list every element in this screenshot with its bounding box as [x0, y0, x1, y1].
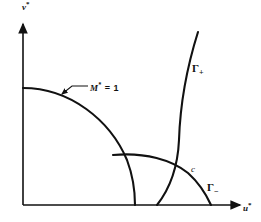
hodograph-figure: v* u* Γ+ Γ− c M* = 1: [0, 0, 261, 222]
u-axis-label: u*: [243, 202, 252, 213]
sonic-condition-variable: M: [90, 83, 99, 93]
gamma-plus-label-subscript: +: [199, 68, 204, 77]
v-axis-label-superscript: *: [26, 0, 30, 8]
u-axis-label-superscript: *: [248, 201, 252, 209]
mach-label-leader-line: [62, 86, 88, 94]
figure-canvas: [0, 0, 261, 222]
gamma-plus-label: Γ+: [192, 63, 204, 77]
gamma-plus-curve: [157, 32, 198, 205]
gamma-minus-label-subscript: −: [214, 187, 219, 196]
sonic-condition-value: = 1: [102, 83, 119, 93]
gamma-minus-label: Γ−: [207, 182, 219, 196]
sonic-circle-curve: [23, 88, 135, 205]
gamma-minus-label-symbol: Γ: [207, 181, 214, 193]
sonic-condition-label: M* = 1: [90, 81, 119, 93]
intersection-point-label: c: [191, 165, 195, 174]
gamma-plus-label-symbol: Γ: [192, 62, 199, 74]
v-axis-label: v*: [22, 1, 30, 12]
